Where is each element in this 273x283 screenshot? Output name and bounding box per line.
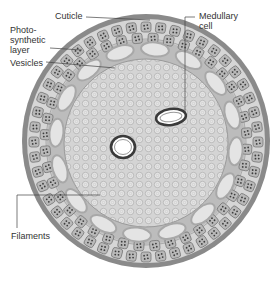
label-photosynthetic-layer: Photo- synthetic layer <box>10 25 46 55</box>
core-filaments <box>64 59 228 227</box>
label-cuticle: Cuticle <box>55 11 83 21</box>
label-medullary-cell: Medullary cell <box>199 11 238 31</box>
label-filaments: Filaments <box>11 231 50 241</box>
label-vesicles: Vesicles <box>10 58 43 68</box>
medullary-cell-lower <box>111 136 135 158</box>
